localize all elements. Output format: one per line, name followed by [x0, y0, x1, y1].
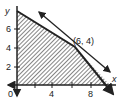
x-tick-4: 4 [49, 89, 54, 99]
point-annotation: (6, 4) [73, 36, 94, 46]
origin-label: 0 [8, 89, 13, 99]
y-axis-label: y [4, 6, 10, 16]
x-tick-8: 8 [88, 89, 93, 99]
chart: y x 6 4 2 0 4 8 (6, 4) [0, 0, 118, 104]
y-tick-2: 2 [6, 62, 11, 72]
x-axis-label: x [111, 74, 117, 84]
y-tick-4: 4 [6, 43, 11, 53]
y-tick-6: 6 [6, 24, 11, 34]
